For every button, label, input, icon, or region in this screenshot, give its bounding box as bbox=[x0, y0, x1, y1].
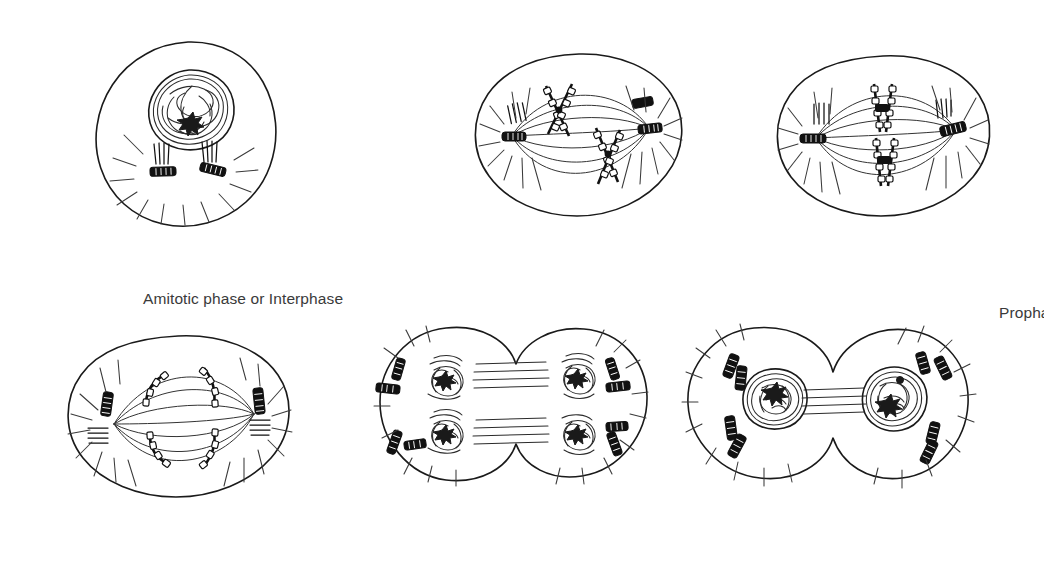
centriole-prophase-right bbox=[631, 96, 662, 134]
panel-anaphase: Anaphase bbox=[58, 330, 298, 508]
centriole-pair-left bbox=[150, 143, 176, 176]
daughter-nucleus-right bbox=[862, 367, 926, 431]
centriole-pair-right bbox=[199, 141, 226, 177]
centriole-te-8 bbox=[606, 431, 623, 457]
chromatid-anaphase-ul bbox=[143, 371, 169, 406]
chromatin-mass-ul bbox=[428, 356, 463, 400]
spindle-fibers bbox=[114, 377, 254, 461]
panel-telophase-late: Telophase bbox=[668, 318, 980, 510]
centriole-anaphase-right bbox=[250, 388, 270, 435]
interphase-cell-drawing bbox=[88, 34, 288, 234]
chromosome-metaphase-lower bbox=[873, 138, 898, 186]
centriole-tl-5 bbox=[915, 351, 931, 375]
prophase-cell-drawing bbox=[468, 48, 690, 228]
metaphase-cell-drawing bbox=[768, 50, 998, 228]
chromosome-prophase-2 bbox=[593, 128, 624, 184]
interzonal-fibers-upper bbox=[473, 362, 549, 388]
chromatin-mass-ll bbox=[428, 410, 463, 454]
telophase-early-cell-drawing bbox=[368, 318, 660, 510]
centriole-metaphase-left bbox=[800, 103, 829, 143]
panel-metaphase: Metaphase bbox=[768, 50, 998, 228]
interzonal-fibers-lower bbox=[473, 418, 549, 444]
astral-rays-right bbox=[224, 358, 292, 486]
centriole-te-4 bbox=[404, 439, 427, 451]
label-prophase: Prophase bbox=[999, 304, 1044, 322]
nuclear-envelope bbox=[149, 70, 234, 150]
chromatin-mass-ur bbox=[562, 354, 595, 399]
centriole-te-7 bbox=[606, 421, 629, 432]
centriole-tl-2 bbox=[735, 366, 747, 391]
midbody-fibers bbox=[802, 388, 866, 414]
centriole-tl-6 bbox=[933, 355, 953, 381]
centriole-te-3 bbox=[386, 429, 403, 455]
chromatid-anaphase-ur bbox=[199, 367, 219, 407]
centriole-tl-3 bbox=[724, 415, 737, 440]
panel-interphase: Amitotic phase or Interphase bbox=[88, 34, 288, 234]
label-interphase: Amitotic phase or Interphase bbox=[143, 290, 343, 308]
centriole-anaphase-left bbox=[88, 391, 114, 443]
astral-rays-early-telophase bbox=[374, 326, 648, 486]
telophase-late-cell-drawing bbox=[668, 318, 980, 510]
panel-telophase-early bbox=[368, 318, 660, 510]
centriole-te-6 bbox=[606, 381, 631, 392]
centriole-te-2 bbox=[376, 383, 401, 394]
daughter-nucleus-left bbox=[743, 369, 807, 429]
astral-rays-right bbox=[926, 86, 989, 190]
mitosis-figure: Amitotic phase or Interphase bbox=[0, 0, 1044, 566]
anaphase-cell-drawing bbox=[58, 330, 298, 508]
centriole-te-1 bbox=[391, 357, 406, 381]
chromatin-mass-lr bbox=[562, 415, 595, 455]
centriole-tl-8 bbox=[919, 439, 939, 465]
panel-prophase: Prophase bbox=[468, 48, 690, 228]
chromosome-prophase-1 bbox=[543, 84, 576, 136]
centriole-te-5 bbox=[605, 357, 620, 381]
astral-rays-late-telophase bbox=[682, 324, 976, 488]
